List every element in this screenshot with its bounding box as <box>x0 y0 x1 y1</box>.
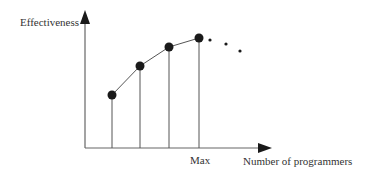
max-label: Max <box>190 154 211 166</box>
y-axis-arrow-icon <box>80 10 90 24</box>
y-axis-label: Effectiveness <box>20 16 79 28</box>
x-axis-arrow-icon <box>258 143 272 153</box>
effectiveness-diagram: Effectiveness Max Number of programmers <box>0 0 369 175</box>
effectiveness-curve <box>112 38 199 95</box>
data-point-max <box>195 34 204 43</box>
data-point <box>136 62 145 71</box>
continuation-dot <box>208 38 211 41</box>
data-point <box>108 91 117 100</box>
data-points <box>108 34 204 100</box>
continuation-dot <box>238 49 241 52</box>
continuation-dot <box>224 42 227 45</box>
continuation-dots <box>208 38 241 52</box>
drop-lines <box>112 38 199 148</box>
x-axis-label: Number of programmers <box>243 155 352 167</box>
data-point <box>165 43 174 52</box>
